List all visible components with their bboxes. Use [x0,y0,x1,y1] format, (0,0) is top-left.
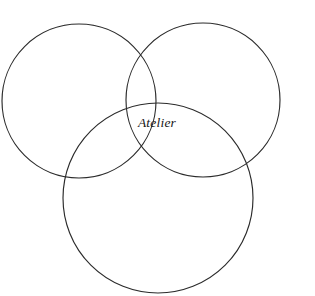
venn-diagram-figure: Atelier [0,0,315,296]
venn-diagram-canvas: Atelier [0,0,315,296]
bottom-circle[interactable] [63,103,253,293]
top-right-circle[interactable] [126,23,280,177]
top-left-circle[interactable] [2,24,156,178]
center-intersection-label: Atelier [137,115,177,130]
